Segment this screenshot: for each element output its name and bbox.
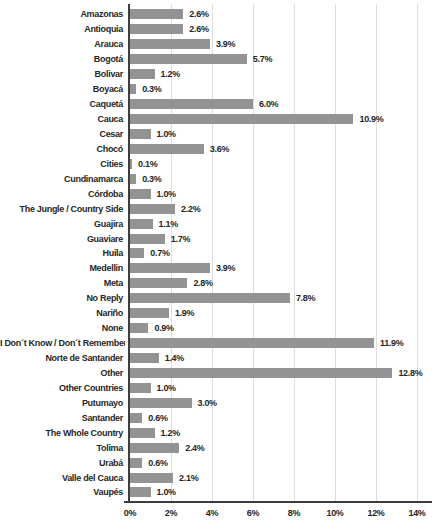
value-label: 1.2% — [161, 428, 180, 438]
bar-row: Urabá0.6% — [0, 455, 442, 470]
bar — [130, 24, 183, 34]
bar-row: I Don´t Know / Don´t Remember11.9% — [0, 336, 442, 351]
value-label: 1.0% — [157, 189, 176, 199]
category-label: None — [0, 323, 125, 333]
value-label: 2.2% — [181, 204, 200, 214]
value-label: 2.1% — [179, 473, 198, 483]
bar-row: Amazonas2.6% — [0, 7, 442, 22]
bar-row: Cundinamarca0.3% — [0, 171, 442, 186]
category-label: Bolivar — [0, 69, 125, 79]
bar-cell: 2.1% — [130, 473, 417, 483]
bar-cell: 1.1% — [130, 219, 417, 229]
bar — [130, 383, 151, 393]
bar-cell: 12.8% — [130, 368, 417, 378]
bar — [130, 323, 148, 333]
bar-cell: 1.4% — [130, 353, 417, 363]
value-label: 1.1% — [159, 219, 178, 229]
value-label: 1.0% — [157, 383, 176, 393]
x-tick-label: 6% — [247, 508, 259, 518]
bar — [130, 293, 290, 303]
bar — [130, 159, 132, 169]
x-tick-label: 12% — [367, 508, 384, 518]
value-label: 1.9% — [175, 308, 194, 318]
bar-row: Guaviare1.7% — [0, 231, 442, 246]
bar-row: Chocó3.6% — [0, 141, 442, 156]
bar-cell: 0.9% — [130, 323, 417, 333]
bar — [130, 84, 136, 94]
bar-rows: Amazonas2.6%Antioquia2.6%Arauca3.9%Bogot… — [0, 7, 442, 500]
category-label: Valle del Cauca — [0, 473, 125, 483]
value-label: 0.9% — [154, 323, 173, 333]
category-label: Guajira — [0, 219, 125, 229]
bar — [130, 473, 173, 483]
value-label: 1.7% — [171, 234, 190, 244]
bar-row: Santander0.6% — [0, 410, 442, 425]
value-label: 10.9% — [359, 114, 383, 124]
value-label: 0.6% — [148, 413, 167, 423]
bar-cell: 2.6% — [130, 24, 417, 34]
bar — [130, 69, 155, 79]
value-label: 2.8% — [193, 278, 212, 288]
value-label: 3.9% — [216, 263, 235, 273]
x-axis-tick-labels: 0%2%4%6%8%10%12%14% — [130, 508, 417, 522]
category-label: Cities — [0, 159, 125, 169]
value-label: 1.4% — [165, 353, 184, 363]
value-label: 6.0% — [259, 99, 278, 109]
bar-cell: 1.0% — [130, 487, 417, 497]
bar-cell: 0.3% — [130, 84, 417, 94]
bar-cell: 11.9% — [130, 338, 417, 348]
category-label: Santander — [0, 413, 125, 423]
category-label: Other Countries — [0, 383, 125, 393]
bar-row: Tolima2.4% — [0, 440, 442, 455]
bar — [130, 234, 165, 244]
bar-cell: 3.6% — [130, 144, 417, 154]
bar-row: None0.9% — [0, 321, 442, 336]
category-label: Antioquia — [0, 24, 125, 34]
value-label: 2.6% — [189, 24, 208, 34]
value-label: 11.9% — [380, 338, 404, 348]
bar — [130, 144, 204, 154]
value-label: 1.2% — [161, 69, 180, 79]
bar — [130, 458, 142, 468]
bar-cell: 1.2% — [130, 428, 417, 438]
category-label: Nariño — [0, 308, 125, 318]
bar-row: No Reply7.8% — [0, 291, 442, 306]
bar-row: Guajira1.1% — [0, 216, 442, 231]
category-label: Bogotá — [0, 54, 125, 64]
bar — [130, 428, 155, 438]
bar-row: Other12.8% — [0, 366, 442, 381]
x-tick-label: 0% — [124, 508, 136, 518]
bar-cell: 1.2% — [130, 69, 417, 79]
value-label: 5.7% — [253, 54, 272, 64]
category-label: Córdoba — [0, 189, 125, 199]
bar-row: Córdoba1.0% — [0, 186, 442, 201]
bar — [130, 413, 142, 423]
bar-cell: 10.9% — [130, 114, 417, 124]
category-label: The Whole Country — [0, 428, 125, 438]
bar-cell: 1.0% — [130, 129, 417, 139]
category-label: Huila — [0, 248, 125, 258]
bar-cell: 2.2% — [130, 204, 417, 214]
bar-cell: 2.8% — [130, 278, 417, 288]
bar — [130, 9, 183, 19]
bar — [130, 487, 151, 497]
bar-cell: 0.3% — [130, 174, 417, 184]
value-label: 1.0% — [157, 129, 176, 139]
bar — [130, 263, 210, 273]
value-label: 12.8% — [398, 368, 422, 378]
bar-row: The Whole Country1.2% — [0, 425, 442, 440]
bar — [130, 443, 179, 453]
bar-row: Valle del Cauca2.1% — [0, 470, 442, 485]
bar-row: Cesar1.0% — [0, 127, 442, 142]
bar-row: Vaupés1.0% — [0, 485, 442, 500]
category-label: I Don´t Know / Don´t Remember — [0, 338, 125, 348]
bar-row: Other Countries1.0% — [0, 380, 442, 395]
bar-row: Huila0.7% — [0, 246, 442, 261]
x-tick-label: 10% — [326, 508, 343, 518]
value-label: 1.0% — [157, 487, 176, 497]
category-label: Chocó — [0, 144, 125, 154]
category-label: Cundinamarca — [0, 174, 125, 184]
x-axis-line — [124, 501, 432, 503]
bar-cell: 0.7% — [130, 248, 417, 258]
x-tick-label: 4% — [206, 508, 218, 518]
